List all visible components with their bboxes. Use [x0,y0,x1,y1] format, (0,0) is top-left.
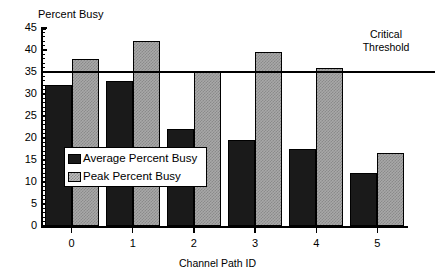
y-tick-minor [41,58,45,59]
critical-threshold-label: Critical Threshold [343,28,429,54]
y-tick-label: 20 [15,132,37,143]
legend-label-peak: Peak Percent Busy [83,171,181,183]
y-tick-major [41,49,47,50]
y-axis-title: Percent Busy [38,8,103,20]
y-tick-label: 5 [15,198,37,209]
y-tick-minor [41,76,45,77]
x-tick [254,227,255,233]
legend-item-average: Average Percent Busy [68,150,203,168]
bar-average-percent-busy [289,149,316,226]
bar-peak-percent-busy [255,52,282,226]
legend-swatch-average-icon [68,154,81,164]
bar-average-percent-busy [350,173,377,226]
y-tick-label: 15 [15,154,37,165]
legend-item-peak: Peak Percent Busy [68,168,203,186]
y-tick-minor [41,32,45,33]
x-axis-line [41,226,408,228]
y-tick-label: 40 [15,44,37,55]
critical-threshold-label-line2: Threshold [343,41,429,54]
x-tick-label: 0 [60,238,84,249]
y-tick-label: 10 [15,176,37,187]
y-tick-minor [41,63,45,64]
y-tick-minor [41,80,45,81]
critical-threshold-line [41,71,435,73]
x-tick [193,227,194,233]
y-tick-minor [41,45,45,46]
y-tick-minor [41,67,45,68]
x-tick-label: 2 [182,238,206,249]
bar-peak-percent-busy [377,153,404,226]
y-tick-minor [41,36,45,37]
bar-average-percent-busy [228,140,255,226]
x-tick-label: 3 [243,238,267,249]
y-tick-label: 35 [15,66,37,77]
x-axis-title: Channel Path ID [0,257,435,269]
bar-chart: Percent Busy 051015202530354045 012345 C… [0,0,435,276]
x-tick [316,227,317,233]
bar-peak-percent-busy [316,68,343,226]
x-tick-label: 4 [304,238,328,249]
y-tick-label: 25 [15,110,37,121]
y-tick-minor [41,54,45,55]
x-tick-label: 5 [365,238,389,249]
y-tick-minor [41,41,45,42]
bar-peak-percent-busy [72,59,99,226]
x-tick [377,227,378,233]
bar-peak-percent-busy [133,41,160,226]
y-tick-label: 45 [15,22,37,33]
legend-swatch-peak-icon [68,172,81,182]
y-tick-major [41,27,47,28]
x-tick [132,227,133,233]
critical-threshold-label-line1: Critical [343,28,429,41]
x-tick-label: 1 [121,238,145,249]
y-tick-label: 0 [15,220,37,231]
x-tick [71,227,72,233]
chart-legend: Average Percent Busy Peak Percent Busy [64,147,207,187]
legend-label-average: Average Percent Busy [83,153,197,165]
y-tick-label: 30 [15,88,37,99]
